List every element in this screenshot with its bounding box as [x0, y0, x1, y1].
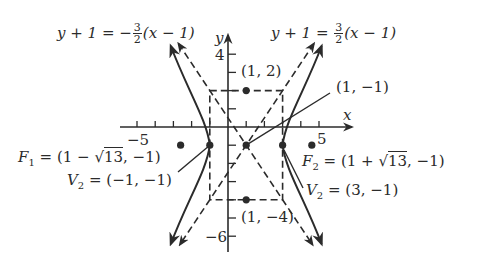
y-axis-label: y [214, 29, 224, 47]
label-center-1-minus1: (1, −1) [336, 80, 389, 95]
label-focus-1: F1 = (1 − √13, −1) [18, 150, 161, 168]
fraction-3-2: 32 [334, 22, 343, 45]
label-point-1-2: (1, 2) [241, 64, 281, 79]
vertex-left [206, 142, 213, 149]
point-1-minus4 [243, 196, 250, 203]
y-axis [228, 35, 236, 252]
left-asymptote-equation: y + 1 = −32(x − 1) [57, 22, 195, 45]
x-tick-label-5: 5 [317, 130, 327, 148]
y-tick-label-4: 4 [215, 46, 225, 64]
fraction-3-2: 32 [133, 22, 142, 45]
point-1-2 [243, 87, 250, 94]
y-tick-label-minus6: −6 [205, 228, 227, 246]
focus-right [308, 142, 315, 149]
label-focus-2: F2 = (1 + √13, −1) [302, 154, 445, 172]
right-asymptote-equation: y + 1 = 32(x − 1) [271, 22, 396, 45]
center-point [243, 142, 250, 149]
focus-left [177, 142, 184, 149]
points [177, 87, 315, 203]
x-tick-label-minus5: −5 [127, 131, 149, 149]
x-axis [120, 121, 352, 127]
x-axis-label: x [343, 106, 352, 124]
vertex-right [279, 142, 286, 149]
left-branch-curve [171, 46, 210, 244]
label-vertex-left: V2 = (−1, −1) [67, 173, 172, 191]
label-point-1-minus4: (1, −4) [241, 210, 294, 225]
label-vertex-right: V2 = (3, −1) [306, 183, 398, 201]
